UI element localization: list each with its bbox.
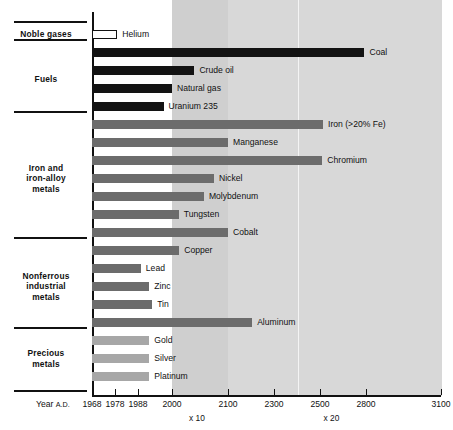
bar-gold (92, 336, 149, 345)
bar-label: Chromium (327, 155, 367, 166)
bar-row: Platinum (92, 372, 449, 381)
group-separator-rule (14, 21, 87, 23)
bar-label: Nickel (219, 173, 242, 184)
group-label-line: industrial (0, 281, 92, 292)
axis-tick (228, 389, 229, 395)
bar-aluminum (92, 318, 252, 327)
axis-tick (115, 389, 116, 395)
bar-zinc (92, 282, 149, 291)
bar-label: Helium (122, 29, 149, 40)
group-label-line: Precious (0, 348, 92, 359)
axis-tick (92, 389, 93, 395)
bar-label: Tungsten (184, 209, 220, 220)
group-label-line: iron-alloy (0, 173, 92, 184)
bar-iron-20-fe (92, 120, 323, 129)
group-label-nonferrous-industrial-metals: Nonferrousindustrialmetals (0, 271, 92, 303)
group-label-iron-and-iron-alloy-metals: Iron andiron-alloymetals (0, 163, 92, 195)
bar-row: Aluminum (92, 318, 449, 327)
axis-tick-label: 2800 (354, 399, 378, 409)
axis-tick (274, 389, 275, 395)
bar-copper (92, 246, 179, 255)
bar-row: Helium (92, 30, 449, 39)
group-label-column: Noble gasesFuelsIron andiron-alloymetals… (0, 0, 92, 396)
bar-chromium (92, 156, 322, 165)
bar-row: Natural gas (92, 84, 449, 93)
bar-natural-gas (92, 84, 172, 93)
group-label-line: metals (0, 359, 92, 370)
group-label-line: metals (0, 292, 92, 303)
bar-label: Zinc (154, 281, 170, 292)
bar-row: Nickel (92, 174, 449, 183)
group-separator-rule (14, 237, 87, 239)
bar-label: Tin (157, 299, 169, 310)
plot-area: HeliumCoalCrude oilNatural gasUranium 23… (92, 0, 449, 396)
axis-tick (320, 389, 321, 395)
axis-tick-label: 1978 (103, 399, 127, 409)
bar-cobalt (92, 228, 228, 237)
bar-row: Gold (92, 336, 449, 345)
bar-row: Chromium (92, 156, 449, 165)
bar-row: Lead (92, 264, 449, 273)
bar-tin (92, 300, 152, 309)
bar-row: Crude oil (92, 66, 449, 75)
bar-row: Iron (>20% Fe) (92, 120, 449, 129)
bar-label: Aluminum (257, 317, 295, 328)
bar-row: Silver (92, 354, 449, 363)
group-label-line: metals (0, 184, 92, 195)
group-separator-rule (14, 327, 87, 329)
bar-label: Molybdenum (209, 191, 258, 202)
bar-platinum (92, 372, 149, 381)
bar-label: Natural gas (177, 83, 221, 94)
bar-label: Gold (154, 335, 172, 346)
axis-tick (366, 389, 367, 395)
bar-row: Cobalt (92, 228, 449, 237)
group-label-line: Fuels (0, 74, 92, 85)
bar-label: Crude oil (199, 65, 233, 76)
bar-label: Iron (>20% Fe) (328, 119, 386, 130)
bar-label: Lead (146, 263, 165, 274)
bar-row: Molybdenum (92, 192, 449, 201)
axis-tick-label: 2000 (160, 399, 184, 409)
bar-label: Coal (369, 47, 387, 58)
group-label-fuels: Fuels (0, 74, 92, 85)
bar-lead (92, 264, 141, 273)
multiplier-label: x 10 (189, 413, 205, 423)
axis-caption-year: Year (36, 399, 56, 409)
bar-label: Silver (154, 353, 176, 364)
group-label-precious-metals: Preciousmetals (0, 348, 92, 369)
group-separator-rule (14, 390, 87, 392)
bar-label: Manganese (233, 137, 278, 148)
axis-tick-label: 3100 (429, 399, 453, 409)
bar-row: Manganese (92, 138, 449, 147)
bar-manganese (92, 138, 228, 147)
group-separator-rule (14, 111, 87, 113)
multiplier-label: x 20 (324, 413, 340, 423)
bar-row: Zinc (92, 282, 449, 291)
axis-tick-label: 1968 (80, 399, 104, 409)
axis-tick-label: 2100 (216, 399, 240, 409)
bar-row: Uranium 235 (92, 102, 449, 111)
axis-caption-ad: A.D. (56, 400, 70, 409)
bar-tungsten (92, 210, 179, 219)
bar-helium (92, 30, 117, 39)
group-separator-rule (14, 39, 87, 41)
axis-tick (441, 389, 442, 395)
axis-tick-label: 2300 (262, 399, 286, 409)
group-label-line: Nonferrous (0, 271, 92, 282)
bar-label: Uranium 235 (169, 101, 218, 112)
bar-silver (92, 354, 149, 363)
axis-tick (138, 389, 139, 395)
bar-label: Cobalt (233, 227, 258, 238)
axis-tick-label: 1988 (126, 399, 150, 409)
bar-coal (92, 48, 364, 57)
bar-label: Copper (184, 245, 212, 256)
bar-row: Copper (92, 246, 449, 255)
axis-tick-label: 2500 (308, 399, 332, 409)
group-label-line: Iron and (0, 163, 92, 174)
bar-nickel (92, 174, 214, 183)
bar-row: Tungsten (92, 210, 449, 219)
axis-caption: Year A.D. (36, 399, 70, 409)
bar-label: Platinum (154, 371, 187, 382)
axis-tick (172, 389, 173, 395)
